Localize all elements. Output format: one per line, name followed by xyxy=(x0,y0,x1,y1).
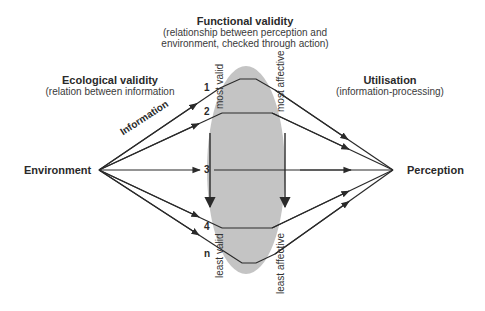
ecological-validity-heading: Ecological validity (relation between in… xyxy=(40,74,180,97)
utilisation-title: Utilisation xyxy=(330,74,450,86)
ecological-validity-subtitle: (relation between information xyxy=(40,86,180,97)
ecological-validity-title: Ecological validity xyxy=(40,74,180,86)
perception-node: Perception xyxy=(407,164,464,176)
cue-label-1: 1 xyxy=(204,83,210,93)
functional-validity-heading: Functional validity (relationship betwee… xyxy=(150,15,340,49)
cue-label-2: 2 xyxy=(204,107,210,117)
least-valid-label: least valid xyxy=(215,234,225,278)
most-valid-label: most valid xyxy=(215,64,225,109)
environment-node: Environment xyxy=(24,164,91,176)
edge-env-cuen-arrow xyxy=(99,170,199,235)
cue-label-n: n xyxy=(204,249,210,259)
utilisation-subtitle: (information-processing) xyxy=(330,86,450,97)
functional-validity-line2: environment, checked through action) xyxy=(150,38,340,49)
edge-env-cue4-arrow xyxy=(99,170,199,217)
cue-label-4: 4 xyxy=(204,222,210,232)
most-affective-label: most affective xyxy=(276,50,286,112)
least-affective-label: least affective xyxy=(276,233,286,294)
edge-env-cue2-arrow xyxy=(99,124,199,170)
utilisation-heading: Utilisation (information-processing) xyxy=(330,74,450,97)
functional-validity-line1: (relationship between perception and xyxy=(150,27,340,38)
functional-validity-title: Functional validity xyxy=(150,15,340,27)
cue-label-3: 3 xyxy=(204,165,210,175)
